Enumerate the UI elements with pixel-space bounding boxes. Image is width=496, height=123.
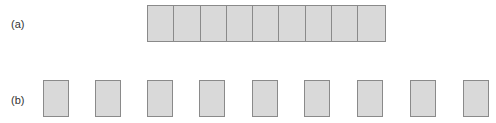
separate-block	[199, 80, 225, 117]
block-cell	[306, 6, 332, 41]
separate-block	[357, 80, 383, 117]
label-a: (a)	[11, 18, 24, 30]
block-cell	[174, 6, 200, 41]
separate-block	[410, 80, 436, 117]
separate-block	[463, 80, 489, 117]
block-cell	[253, 6, 279, 41]
block-cell	[201, 6, 227, 41]
contiguous-block-row	[147, 5, 386, 42]
block-cell	[279, 6, 305, 41]
separate-block	[304, 80, 330, 117]
separate-block	[147, 80, 173, 117]
block-cell	[148, 6, 174, 41]
block-cell	[358, 6, 384, 41]
separate-block	[95, 80, 121, 117]
block-cell	[227, 6, 253, 41]
block-cell	[332, 6, 358, 41]
label-b: (b)	[11, 94, 24, 106]
separate-block	[252, 80, 278, 117]
separate-block	[43, 80, 69, 117]
